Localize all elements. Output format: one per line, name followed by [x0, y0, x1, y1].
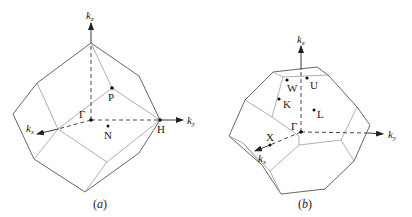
w-label: W — [287, 82, 298, 94]
l-label: L — [317, 108, 324, 120]
kx-axis-dashed — [58, 120, 91, 129]
kz-label: kz — [86, 9, 94, 23]
u-point — [305, 76, 308, 79]
x-label: X — [266, 131, 274, 143]
figure-b-fcc-zone: kz ky kx Γ W U K L X (b) — [229, 33, 397, 211]
bcc-inner-edges — [34, 43, 160, 192]
k-point — [277, 97, 280, 100]
caption-b: (b) — [298, 197, 312, 211]
fcc-outline — [229, 67, 370, 194]
gamma-point — [89, 118, 93, 122]
bcc-outline — [13, 43, 160, 192]
ky-axis-arrow — [368, 133, 383, 134]
gamma-point — [299, 130, 303, 134]
h-point — [158, 118, 162, 122]
n-point — [107, 125, 110, 128]
ky-axis-dashed — [301, 132, 368, 133]
gamma-label: Γ — [291, 120, 297, 132]
h-label: H — [157, 123, 165, 135]
brillouin-zone-diagram: kz ky kx Γ P N H (a) — [0, 0, 412, 217]
kz-label: kz — [297, 33, 305, 47]
k-label: K — [283, 98, 291, 110]
n-label: N — [104, 129, 112, 141]
l-point — [313, 109, 316, 112]
figure-a-bcc-zone: kz ky kx Γ P N H (a) — [13, 9, 196, 211]
p-label: P — [108, 91, 114, 103]
u-label: U — [310, 79, 318, 91]
kx-label: kx — [258, 152, 267, 166]
ky-label: ky — [187, 114, 196, 128]
kx-axis-arrow — [255, 145, 270, 151]
kx-label: kx — [26, 122, 35, 136]
caption-a: (a) — [93, 197, 107, 211]
x-point — [268, 143, 271, 146]
gamma-label: Γ — [79, 108, 85, 120]
p-point — [110, 86, 114, 90]
ky-label: ky — [388, 128, 397, 142]
